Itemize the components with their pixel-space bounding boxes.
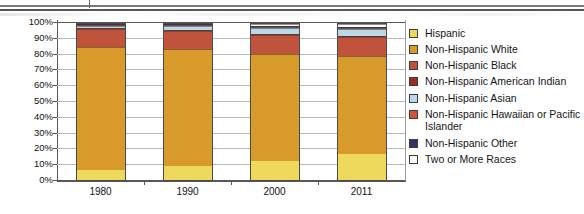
bar-segment <box>77 29 125 47</box>
bar-segment <box>164 31 212 49</box>
legend-label: Non-Hispanic Black <box>425 59 517 71</box>
y-tick-label: 80% <box>34 49 53 59</box>
bar-1990[interactable] <box>163 23 213 181</box>
bar-segment <box>77 170 125 180</box>
y-tick-label: 70% <box>34 64 53 74</box>
legend-label: Non-Hispanic American Indian <box>425 75 566 87</box>
legend-item[interactable]: Non-Hispanic Hawaiian or Pacific Islande… <box>409 108 581 132</box>
legend-label: Non-Hispanic White <box>425 43 518 55</box>
page-rule-top <box>0 5 584 7</box>
legend-swatch <box>409 61 418 70</box>
y-axis-labels: 0%10%20%30%40%50%60%70%80%90%100% <box>0 22 53 182</box>
legend-swatch <box>409 29 418 38</box>
bar-segment <box>338 56 386 154</box>
legend-swatch <box>409 110 418 119</box>
plot-right-border <box>405 20 406 182</box>
legend-swatch <box>409 45 418 54</box>
bar-segment <box>164 166 212 180</box>
legend-swatch <box>409 155 418 164</box>
y-tick-label: 0% <box>39 175 53 185</box>
legend-label: Non-Hispanic Hawaiian or Pacific Islande… <box>425 108 581 132</box>
x-tick-label: 1980 <box>66 186 136 197</box>
bar-segment <box>164 49 212 166</box>
legend-item[interactable]: Hispanic <box>409 27 581 39</box>
legend-item[interactable]: Two or More Races <box>409 153 581 165</box>
bar-1980[interactable] <box>76 23 126 181</box>
x-tick-mark <box>318 181 319 185</box>
y-tick-label: 30% <box>34 128 53 138</box>
x-tick-label: 2011 <box>327 186 397 197</box>
bar-segment <box>251 161 299 180</box>
legend-label: Non-Hispanic Other <box>425 137 517 149</box>
y-tick-label: 50% <box>34 96 53 106</box>
bar-2000[interactable] <box>250 23 300 181</box>
legend-label: Hispanic <box>425 27 465 39</box>
plot-area <box>57 22 405 180</box>
bar-segment <box>338 37 386 56</box>
chart-page: 0%10%20%30%40%50%60%70%80%90%100% 198019… <box>0 0 584 214</box>
y-tick-label: 100% <box>29 17 53 27</box>
scan-artifact <box>0 13 584 16</box>
bar-2011[interactable] <box>337 23 387 181</box>
y-tick-label: 40% <box>34 112 53 122</box>
bar-segment <box>251 54 299 161</box>
legend-item[interactable]: Non-Hispanic Asian <box>409 92 581 104</box>
legend-item[interactable]: Non-Hispanic White <box>409 43 581 55</box>
legend-swatch <box>409 77 418 86</box>
bar-segment <box>338 154 386 180</box>
legend-label: Non-Hispanic Asian <box>425 92 517 104</box>
legend-label: Two or More Races <box>425 153 516 165</box>
y-tick-label: 10% <box>34 159 53 169</box>
legend-item[interactable]: Non-Hispanic Other <box>409 137 581 149</box>
x-tick-label: 2000 <box>240 186 310 197</box>
page-rule-tick <box>89 0 90 8</box>
y-tick-label: 60% <box>34 80 53 90</box>
bar-segment <box>251 35 299 54</box>
bar-group <box>57 22 405 181</box>
x-tick-mark <box>144 181 145 185</box>
x-tick-mark <box>231 181 232 185</box>
legend-item[interactable]: Non-Hispanic Black <box>409 59 581 71</box>
y-tick-label: 20% <box>34 143 53 153</box>
page-rule-second <box>0 9 584 11</box>
y-tick-label: 90% <box>34 33 53 43</box>
legend-swatch <box>409 139 418 148</box>
legend-swatch <box>409 94 418 103</box>
bar-segment <box>77 47 125 170</box>
chart-legend: HispanicNon-Hispanic WhiteNon-Hispanic B… <box>409 27 581 169</box>
legend-item[interactable]: Non-Hispanic American Indian <box>409 75 581 87</box>
x-tick-label: 1990 <box>153 186 223 197</box>
bar-segment <box>338 29 386 36</box>
